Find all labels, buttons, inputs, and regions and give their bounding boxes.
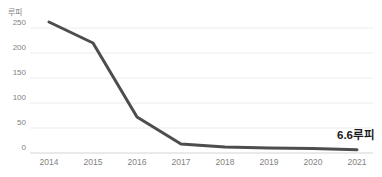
- x-tick-label: 2017: [172, 157, 191, 167]
- x-tick-label: 2018: [216, 157, 235, 167]
- data-line: [49, 22, 357, 150]
- y-tick-label: 150: [13, 68, 27, 77]
- x-tick-label: 2020: [304, 157, 323, 167]
- y-tick-label: 100: [13, 93, 27, 102]
- x-tick-label: 2015: [84, 157, 103, 167]
- x-tick-label: 2021: [348, 157, 367, 167]
- y-tick-label: 200: [13, 43, 27, 52]
- line-chart: 루피 0501001502002502014201520162017201820…: [0, 0, 382, 177]
- x-tick-label: 2014: [40, 157, 59, 167]
- y-tick-label: 250: [13, 18, 27, 27]
- chart-canvas: 0501001502002502014201520162017201820192…: [0, 0, 382, 177]
- x-tick-label: 2019: [260, 157, 279, 167]
- value-annotation: 6.6루피: [337, 129, 375, 142]
- x-tick-label: 2016: [128, 157, 147, 167]
- y-tick-label: 50: [17, 118, 26, 127]
- y-tick-label: 0: [22, 143, 27, 152]
